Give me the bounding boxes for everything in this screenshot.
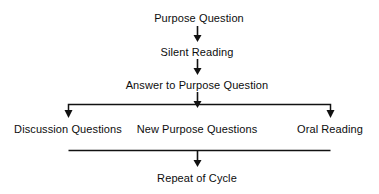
node-silent-reading: Silent Reading: [161, 46, 234, 59]
branch-right-arrow-icon: [327, 110, 335, 118]
branch-left-arrow-icon: [65, 110, 73, 118]
arrow-answer-to-branch-icon: [194, 92, 202, 108]
node-answer-to-purpose-question: Answer to Purpose Question: [126, 79, 269, 92]
arrow-silent-to-answer-icon: [194, 59, 202, 75]
flowchart-diagram: Purpose Question Silent Reading Answer t…: [0, 0, 379, 194]
arrow-purpose-to-silent-icon: [194, 26, 202, 42]
node-oral-reading: Oral Reading: [297, 123, 363, 136]
branch-bar: [69, 105, 331, 113]
node-repeat-of-cycle: Repeat of Cycle: [157, 172, 237, 185]
node-new-purpose-questions: New Purpose Questions: [137, 123, 258, 136]
arrow-merge-to-repeat-icon: [194, 151, 202, 167]
flowchart-connectors: [0, 0, 379, 194]
node-purpose-question: Purpose Question: [154, 12, 244, 25]
node-discussion-questions: Discussion Questions: [14, 123, 122, 136]
